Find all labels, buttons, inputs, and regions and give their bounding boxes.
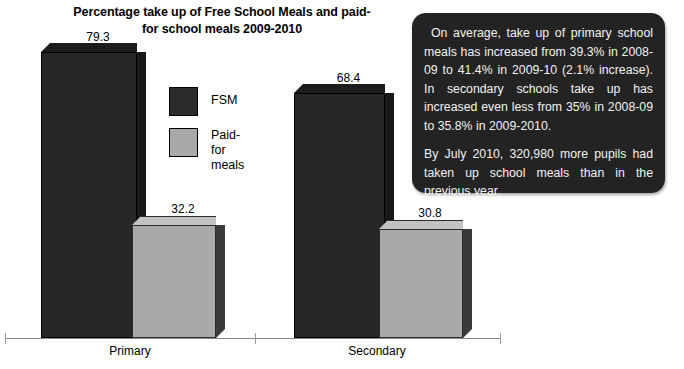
bar-primary-fsm: [41, 52, 137, 338]
bar-top-face: [132, 216, 216, 225]
callout-paragraph-2: By July 2010, 320,980 more pupils had ta…: [424, 145, 653, 201]
chart-screenshot: Percentage take up of Free School Meals …: [0, 0, 684, 369]
bar-front-face: [379, 229, 463, 338]
bar-top-face: [294, 84, 385, 93]
axis-tick-start: [5, 333, 6, 344]
legend-swatch-fsm: [169, 87, 198, 116]
legend-swatch-paid-for-meals: [169, 128, 198, 157]
axis-tick-end: [500, 333, 501, 344]
bar-top-face: [41, 43, 137, 52]
bar-value-secondary-paid: 30.8: [388, 206, 472, 220]
axis-tick-middle: [255, 333, 256, 344]
bar-side-face: [463, 229, 472, 338]
bar-secondary-paid: [379, 229, 463, 338]
bar-top-face: [379, 220, 463, 229]
bar-front-face: [41, 52, 137, 338]
legend-label-fsm: FSM: [211, 87, 237, 108]
bar-front-face: [294, 93, 385, 338]
annotation-callout-box: On average, take up of primary school me…: [412, 13, 665, 193]
legend-label-paid-for-meals: Paid-for meals: [211, 128, 244, 173]
category-label-primary: Primary: [80, 344, 180, 358]
x-axis-line: [5, 338, 501, 339]
bar-primary-paid: [132, 225, 216, 338]
legend-item-paid-for-meals: Paid-for meals: [169, 128, 244, 173]
legend-item-fsm: FSM: [169, 87, 237, 116]
bar-side-face: [216, 225, 225, 338]
bar-front-face: [132, 225, 216, 338]
callout-paragraph-1: On average, take up of primary school me…: [424, 24, 653, 135]
bar-value-primary-fsm: 79.3: [50, 30, 146, 44]
bar-secondary-fsm: [294, 93, 385, 338]
bar-value-secondary-fsm: 68.4: [303, 71, 394, 85]
bar-value-primary-paid: 32.2: [141, 202, 225, 216]
category-label-secondary: Secondary: [327, 344, 427, 358]
